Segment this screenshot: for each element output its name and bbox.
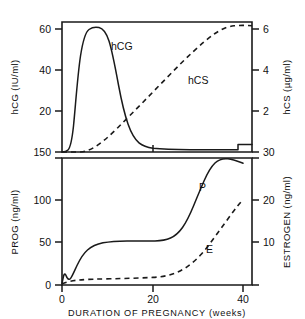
x-ticklabel-20: 20 [147,293,159,305]
upper-panel: 60 40 20 150 6 4 2 30 hCG hCS [9,22,292,158]
upper-left-ticklabel-40: 40 [39,64,51,76]
lower-right-axis-title: ESTROGEN (ng/ml) [281,176,292,268]
upper-right-ticklabel-6: 6 [263,23,269,35]
upper-right-ticklabel-4: 4 [263,64,269,76]
lower-right-ticklabel-20: 20 [263,194,275,206]
x-axis-ticks [62,285,243,292]
x-ticklabel-40: 40 [237,293,249,305]
upper-left-ticks [55,29,62,152]
upper-right-ticks [252,29,259,152]
lower-left-axis-title: PROG (ng/ml) [9,190,20,255]
lower-plot-frame [62,158,252,285]
upper-right-ticklabel-2: 2 [263,105,269,117]
lower-left-ticklabel-50: 50 [39,236,51,248]
pregnancy-hormone-chart: 60 40 20 150 6 4 2 30 hCG hCS [0,0,305,319]
upper-right-axis-title: hCS (µg/ml) [281,59,292,114]
hcg-curve [62,27,252,152]
hcs-series-label: hCS [188,74,208,86]
lower-left-ticks [55,158,62,285]
hcg-series-label: hCG [111,40,133,52]
upper-left-axis-title: hCG (IU/ml) [9,59,20,114]
lower-left-ticklabel-0: 0 [45,279,51,291]
upper-left-ticklabel-60: 60 [39,23,51,35]
lower-right-ticks [252,158,259,285]
estrogen-series-label: E [206,243,213,255]
hcs-curve [62,25,252,152]
x-axis-title: DURATION OF PREGNANCY (weeks) [68,308,246,318]
lower-right-ticklabel-10: 10 [263,236,275,248]
estrogen-curve [62,200,243,284]
chart-svg: 60 40 20 150 6 4 2 30 hCG hCS [0,0,305,319]
upper-left-ticklabel-20: 20 [39,105,51,117]
prog-curve [62,159,243,284]
upper-left-ticklabel-baseline: 150 [33,146,51,158]
lower-left-ticklabel-100: 100 [33,194,51,206]
upper-right-ticklabel-baseline: 30 [263,146,275,158]
prog-series-label: P [199,181,206,193]
x-ticklabel-0: 0 [59,293,65,305]
lower-panel: 100 50 0 20 10 0 20 40 [9,158,292,305]
